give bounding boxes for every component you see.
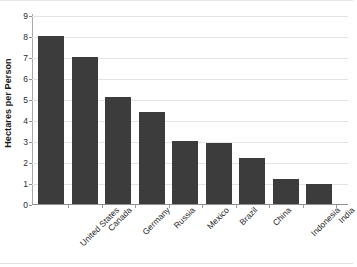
x-axis-category-label: Germany: [140, 205, 172, 237]
bar: [306, 184, 332, 204]
y-axis-tick-label: 1: [23, 180, 28, 189]
frame-bottom-divider: [0, 263, 353, 264]
y-axis-tick-mark: [29, 79, 32, 80]
y-axis-tick-mark: [29, 184, 32, 185]
x-axis-category-label: Russia: [171, 205, 196, 230]
bar: [172, 141, 198, 204]
y-axis-tick-mark: [29, 16, 32, 17]
y-axis-tick-label: 6: [23, 75, 28, 84]
y-axis-tick-label: 9: [23, 12, 28, 21]
y-axis-tick-label: 7: [23, 54, 28, 63]
frame-top-divider: [0, 0, 353, 1]
y-axis-tick-mark: [29, 37, 32, 38]
bar: [239, 158, 265, 204]
y-axis-tick-mark: [29, 163, 32, 164]
x-axis-category-label: Indonesia: [309, 205, 342, 238]
x-axis-category-label: China: [271, 205, 294, 228]
bar: [273, 179, 299, 204]
bar: [38, 36, 64, 204]
y-axis-tick-label: 8: [23, 33, 28, 42]
y-axis-tick-label: 2: [23, 159, 28, 168]
y-axis-line: [32, 14, 33, 205]
bar: [206, 143, 232, 204]
y-axis-tick-labels: 0123456789: [16, 0, 30, 210]
y-axis-tick-mark: [29, 58, 32, 59]
x-axis-category-label: Mexico: [205, 205, 231, 231]
x-axis-category-labels: United StatesCanadaGermanyRussiaMexicoBr…: [32, 205, 348, 263]
y-axis-tick-mark: [29, 142, 32, 143]
bar: [139, 112, 165, 204]
y-axis-title: Hectares per Person: [0, 0, 16, 205]
gridline: [32, 37, 348, 38]
y-axis-tick-mark: [29, 121, 32, 122]
y-axis-tick-label: 5: [23, 96, 28, 105]
y-axis-tick-label: 3: [23, 138, 28, 147]
plot-area: [32, 16, 348, 205]
y-axis-tick-mark: [29, 100, 32, 101]
y-axis-tick-label: 0: [23, 201, 28, 210]
bar: [72, 57, 98, 204]
y-axis-tick-label: 4: [23, 117, 28, 126]
y-axis-title-text: Hectares per Person: [3, 58, 13, 147]
x-axis-category-label: Brazil: [237, 205, 259, 227]
gridline: [32, 16, 348, 17]
bar: [105, 97, 131, 204]
x-axis-category-label: India: [337, 205, 357, 225]
